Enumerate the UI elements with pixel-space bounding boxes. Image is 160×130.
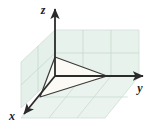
- y-axis-label: y: [135, 81, 143, 95]
- x-axis-label: x: [8, 109, 15, 123]
- diagram-canvas: z y x: [0, 0, 160, 130]
- coordinate-axes-figure: z y x: [0, 0, 160, 130]
- z-axis-label: z: [40, 3, 46, 17]
